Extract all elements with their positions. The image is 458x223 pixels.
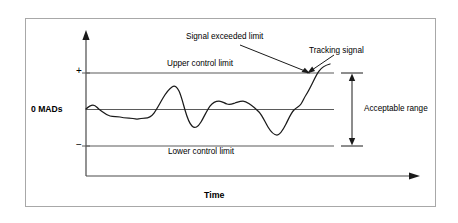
x-axis-label: Time <box>204 191 224 200</box>
y-axis <box>82 30 89 176</box>
acceptable-range-indicator <box>341 73 363 146</box>
signal-exceeded-leader <box>240 45 310 74</box>
y-tick-plus-label: + <box>76 66 82 76</box>
signal-exceeded-limit-label: Signal exceeded limit <box>186 33 263 41</box>
y-tick-minus-label: − <box>76 140 82 150</box>
tracking-signal-curve <box>86 64 330 135</box>
upper-control-limit-label: Upper control limit <box>167 60 233 68</box>
acceptable-range-label: Acceptable range <box>364 105 428 113</box>
tracking-signal-label: Tracking signal <box>309 47 364 55</box>
arrow-up-icon <box>82 30 89 40</box>
double-arrow-vertical-icon <box>349 74 355 82</box>
y-axis-label: 0 MADs <box>31 105 63 114</box>
tracking-signal-figure: 0 MADs + − Upper control limit Lower con… <box>0 0 458 223</box>
arrow-right-icon <box>409 172 420 179</box>
x-axis <box>86 172 420 179</box>
lower-control-limit-label: Lower control limit <box>168 148 234 156</box>
